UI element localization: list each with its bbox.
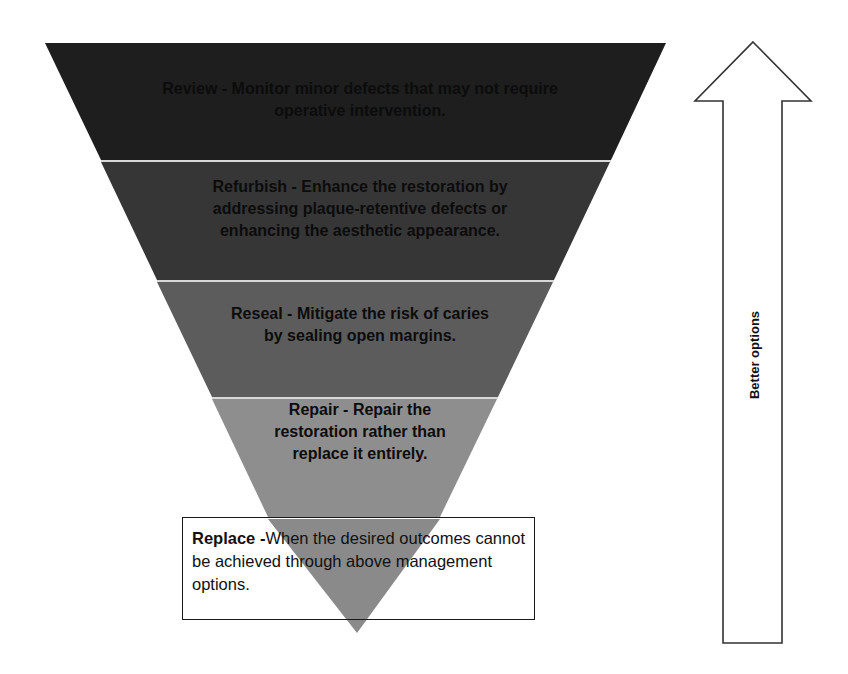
level-replace-title: Replace	[192, 529, 255, 547]
level-repair-title: Repair	[289, 401, 339, 418]
level-refurbish-separator: -	[287, 178, 301, 195]
level-review-text: Review - Monitor minor defects that may …	[160, 78, 560, 122]
level-refurbish-title: Refurbish	[212, 178, 287, 195]
level-repair-text: Repair - Repair the restoration rather t…	[270, 399, 450, 465]
level-reseal-separator: -	[283, 305, 297, 322]
level-replace-separator: -	[255, 529, 265, 547]
level-review-separator: -	[217, 80, 231, 97]
level-reseal-title: Reseal	[231, 305, 283, 322]
level-review-title: Review	[162, 80, 217, 97]
level-reseal-description: Mitigate the risk of caries by sealing o…	[264, 305, 489, 344]
arrow-label: Better options	[747, 311, 762, 399]
level-replace-text: Replace -When the desired outcomes canno…	[192, 527, 537, 596]
level-refurbish-text: Refurbish - Enhance the restoration by a…	[190, 176, 530, 242]
level-reseal-text: Reseal - Mitigate the risk of caries by …	[225, 303, 495, 347]
level-review-description: Monitor minor defects that may not requi…	[232, 80, 558, 119]
level-repair-separator: -	[339, 401, 353, 418]
